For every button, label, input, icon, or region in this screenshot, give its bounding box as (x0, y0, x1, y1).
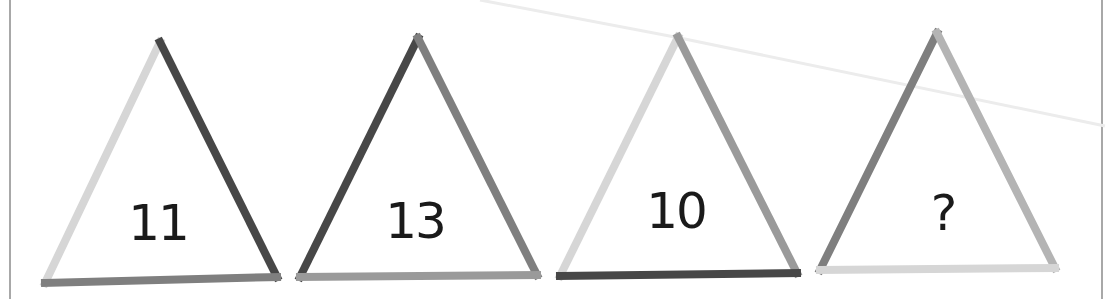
triangle-3 (560, 37, 797, 276)
triangle-group (45, 33, 1055, 283)
triangle-missing-number: ? (931, 188, 956, 238)
triangle-number-2: 13 (385, 196, 445, 246)
faint-diagonal-line (480, 0, 1105, 126)
triangle-number-3: 10 (646, 186, 706, 236)
puzzle-canvas (0, 0, 1110, 299)
triangle-1-bottom-edge (45, 277, 277, 283)
triangle-3-bottom-edge (560, 273, 797, 276)
triangle-2-bottom-edge (300, 275, 537, 277)
triangle-4-bottom-edge (820, 268, 1055, 270)
triangle-number-1: 11 (128, 198, 188, 248)
triangle-3-left-edge (560, 37, 678, 276)
triangle-4-left-edge (820, 33, 937, 270)
